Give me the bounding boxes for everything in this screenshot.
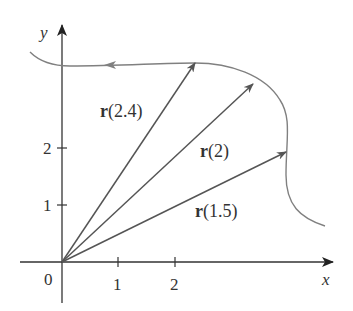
y-axis-label: y bbox=[38, 23, 48, 42]
x-axis-label: x bbox=[321, 270, 330, 289]
origin-label: 0 bbox=[44, 270, 53, 289]
y-tick-label-1: 1 bbox=[43, 196, 52, 215]
x-tick-label-2: 2 bbox=[170, 275, 179, 294]
space-curve bbox=[30, 52, 325, 226]
vector-label-r-2.4: r(2.4) bbox=[100, 101, 143, 122]
x-tick-label-1: 1 bbox=[113, 275, 122, 294]
vector-label-r-2: r(2) bbox=[200, 141, 229, 162]
y-tick-label-2: 2 bbox=[43, 139, 52, 158]
vector-r-1.5 bbox=[62, 152, 286, 262]
vector-function-diagram: y x 0 1 2 1 2 r(2.4) r(2) r(1.5) bbox=[0, 0, 353, 311]
vector-label-r-1.5: r(1.5) bbox=[195, 201, 238, 222]
vector-r-2.4 bbox=[62, 63, 195, 262]
vector-r-2 bbox=[62, 84, 253, 262]
